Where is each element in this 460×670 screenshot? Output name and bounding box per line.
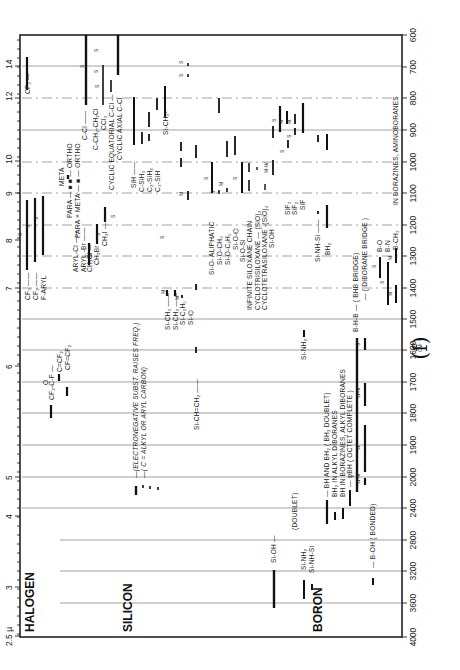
intensity-mark: W-M: [355, 388, 361, 398]
intensity-mark: S: [79, 64, 85, 68]
band-label: — ( DIBORANE BRIDGE ): [361, 218, 369, 300]
band-label: — B-OH ( BONDED): [369, 504, 377, 568]
right-tick-label: 3200: [408, 561, 418, 580]
right-tick-label: 4000: [408, 627, 418, 646]
left-tick-label: 5: [4, 475, 14, 480]
right-tick-label: 1400: [408, 278, 418, 297]
band-label: META: [58, 167, 65, 186]
intensity-mark: S: [286, 134, 292, 138]
intensity-mark: M: [286, 120, 292, 124]
band-label: CCl₃: [100, 115, 107, 130]
band-label: — BH AND BH₂ ( BH₂ DOUBLET): [323, 392, 331, 497]
left-tick-label: 14: [4, 59, 14, 69]
left-tick-label: 10: [4, 154, 14, 164]
intensity-mark: S: [379, 280, 385, 284]
band-label: C-Cl ——: [81, 110, 88, 140]
band-label: Si-O-C₂H₅: [224, 233, 231, 265]
right-tick-label: 700: [408, 60, 418, 74]
right-tick-label: 2800: [408, 530, 418, 549]
band-label: PARA + META — ■ — ORTHO: [74, 143, 81, 238]
band-label: Si-CH₃-: [162, 111, 169, 135]
band-label: C-SiH₃: [138, 170, 145, 192]
band-label: SiH ——: [130, 161, 137, 188]
intensity-mark: S: [110, 214, 116, 218]
band-label: BH₂ IN ALKYL DIBORANES: [331, 410, 338, 497]
intensity-mark: S: [159, 235, 165, 239]
band-label: CF₃ ——: [24, 272, 31, 300]
band-label: PARA — ■ ■ — ORTHO: [66, 143, 73, 218]
band-label: Si-OH: [268, 229, 275, 248]
intensity-mark: S: [371, 264, 377, 268]
band-labels: CF₃ —CF₃ ——CF₂ ——F-ARYLOCF₂-C-F —C=CF₂CF…: [24, 73, 399, 573]
band-label: — φBH ( OCTET COMPLETE ): [346, 390, 354, 487]
band-label: Si-O-Si: [239, 239, 246, 262]
left-tick-label: 7: [4, 286, 14, 291]
right-tick-label: 1200: [408, 215, 418, 234]
right-tick-label: 1300: [408, 246, 418, 265]
band-label: Si-O-CH₃: [216, 236, 223, 265]
left-tick-label: 9: [4, 191, 14, 196]
band-label: CYCLIC EQUATORIAL C-Cl —: [108, 94, 116, 190]
band-label: B-H-B — ( BHB BRIDGE): [352, 253, 360, 332]
band-label: C-CH₂-CH₂Cl: [92, 108, 99, 150]
band-label: (DOUBLET): [291, 493, 299, 530]
band-label: SiF₃: [284, 202, 291, 215]
band-label: B-N: [384, 240, 391, 252]
left-tick-label: 2.5 µ: [4, 627, 14, 646]
band-label: BH₂: [324, 242, 331, 255]
band-label: C₃-SiH: [154, 170, 161, 192]
intensity-mark: S: [279, 149, 285, 153]
right-tick-label: 600: [408, 28, 418, 42]
band-label: Si-NH₂: [300, 548, 307, 570]
band-label: C=CF₂: [56, 351, 63, 372]
right-tick-label: 2000: [408, 467, 418, 486]
band-label: SiF: [299, 200, 306, 211]
band-label: Si-CH₃ ——: [164, 293, 171, 330]
intensity-mark: S: [178, 73, 184, 77]
band-label: CF=CF₂: [64, 345, 71, 370]
band-label: CH₂Br —: [93, 236, 100, 265]
band-label: Si-C₂H₅: [179, 301, 186, 325]
right-tick-label: 3600: [408, 593, 418, 612]
intensity-mark: W-M: [355, 474, 361, 484]
left-tick-label: 8: [4, 238, 14, 243]
group-heading-halogen: HALOGEN: [23, 572, 37, 632]
intensity-mark: S: [93, 69, 99, 73]
group-headings: HALOGENSILICONBORON: [23, 572, 325, 632]
intensity-mark: S: [93, 48, 99, 52]
group-heading-boron: BORON: [311, 587, 325, 632]
band-label: Si-NH-Si ——: [314, 219, 321, 262]
intensity-mark: M: [387, 256, 393, 260]
right-tick-label: 1000: [408, 152, 418, 171]
band-label: C₂-SiH₂: [146, 168, 153, 192]
band-label: Si-CH=CH₂ ——: [193, 379, 200, 430]
band-note: —( C = ALKYL OR ARYL CARBON): [140, 367, 148, 479]
band-label: CF₂-C-F —: [48, 365, 55, 400]
left-tick-label: 4: [4, 514, 14, 519]
left-axis-micron: 2.5 µ3456789101214: [4, 40, 20, 646]
band-label: F-ARYL: [40, 275, 47, 300]
figure-label-text: (f): [408, 336, 432, 359]
band-label: INFINITE SILOXANE CHAIN: [246, 221, 253, 310]
band-label: Si-O- ALIPHATIC: [208, 222, 215, 275]
band-label: B-O: [376, 240, 383, 252]
intensity-mark: M: [218, 182, 224, 186]
intensity-mark: S: [232, 176, 238, 180]
band-label: Si-NH-Si: [308, 545, 315, 573]
right-tick-label: 900: [408, 123, 418, 137]
band-label: Si-NH₂ —: [300, 330, 307, 360]
intensity-mark: M-W: [263, 162, 269, 173]
chart-frame: [20, 35, 402, 637]
band-label: IN BORAZINES, AMINOBORANES: [392, 96, 399, 205]
band-label: CYCLIC AXIAL C-Cl: [116, 97, 123, 160]
right-tick-label: 1900: [408, 435, 418, 454]
band-label: SiF₂: [291, 202, 298, 215]
intensity-mark: S: [94, 84, 100, 88]
intensity-mark: M: [174, 296, 180, 300]
band-label: Si-⌬: [187, 310, 194, 325]
intensity-mark: M: [387, 292, 393, 296]
band-label: CYCLOTETRASILOXANE -(SiO)₄: [261, 205, 269, 310]
left-tick-label: 6: [4, 364, 14, 369]
right-tick-label: 2400: [408, 498, 418, 517]
intensity-mark: M: [178, 192, 184, 196]
